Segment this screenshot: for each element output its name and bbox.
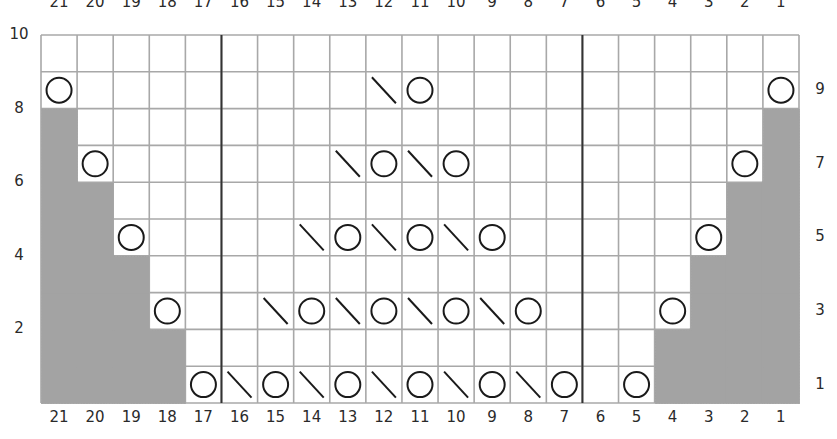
yarn-over-icon: [768, 78, 793, 103]
yarn-over-icon: [480, 372, 505, 397]
decrease-icon: [408, 298, 432, 324]
yarn-over-icon: [444, 299, 469, 324]
decrease-icon: [372, 224, 396, 250]
decrease-icon: [336, 151, 360, 177]
yarn-over-icon: [732, 151, 757, 176]
decrease-icon: [516, 372, 540, 398]
yarn-over-icon: [299, 299, 324, 324]
decrease-icon: [264, 298, 288, 324]
yarn-over-icon: [624, 372, 649, 397]
yarn-over-icon: [480, 225, 505, 250]
yarn-over-icon: [335, 372, 360, 397]
knitting-chart: 212019181716151413121110987654321 212019…: [0, 0, 837, 439]
yarn-over-icon: [408, 225, 433, 250]
yarn-over-icon: [408, 372, 433, 397]
decrease-icon: [444, 372, 468, 398]
yarn-over-icon: [263, 372, 288, 397]
grid-lines: [0, 0, 837, 439]
yarn-over-icon: [444, 151, 469, 176]
yarn-over-icon: [335, 225, 360, 250]
decrease-icon: [444, 224, 468, 250]
decrease-icon: [480, 298, 504, 324]
yarn-over-icon: [371, 151, 396, 176]
decrease-icon: [336, 298, 360, 324]
decrease-icon: [372, 77, 396, 103]
yarn-over-icon: [408, 78, 433, 103]
decrease-icon: [372, 372, 396, 398]
yarn-over-icon: [83, 151, 108, 176]
yarn-over-icon: [660, 299, 685, 324]
yarn-over-icon: [155, 299, 180, 324]
yarn-over-icon: [371, 299, 396, 324]
yarn-over-icon: [119, 225, 144, 250]
yarn-over-icon: [47, 78, 72, 103]
yarn-over-icon: [191, 372, 216, 397]
yarn-over-icon: [516, 299, 541, 324]
yarn-over-icon: [552, 372, 577, 397]
decrease-icon: [408, 151, 432, 177]
decrease-icon: [300, 372, 324, 398]
decrease-icon: [228, 372, 252, 398]
yarn-over-icon: [696, 225, 721, 250]
decrease-icon: [300, 224, 324, 250]
